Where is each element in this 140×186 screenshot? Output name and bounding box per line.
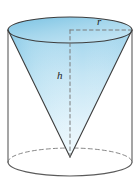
radius-label: r [97, 16, 101, 27]
figure-canvas [0, 0, 140, 186]
cylinder-bottom-visible-edge [8, 162, 132, 176]
cone-in-cylinder-figure: r h [0, 0, 140, 186]
height-label: h [57, 70, 63, 81]
